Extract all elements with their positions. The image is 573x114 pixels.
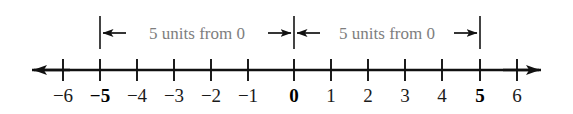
- number-line-graphic: [0, 0, 573, 114]
- tick-label--2: −2: [201, 86, 221, 105]
- tick-label-2: 2: [363, 86, 373, 105]
- tick-label--3: −3: [164, 86, 184, 105]
- tick-label--4: −4: [127, 86, 147, 105]
- left-span-label: 5 units from 0: [149, 25, 245, 42]
- tick-label--1: −1: [238, 86, 258, 105]
- tick-label-1: 1: [326, 86, 336, 105]
- tick-label-3: 3: [400, 86, 410, 105]
- tick-label-6: 6: [512, 86, 522, 105]
- tick-label-4: 4: [437, 86, 447, 105]
- tick-label-5: 5: [475, 86, 485, 105]
- tick-label--6: −6: [53, 86, 73, 105]
- right-span-label: 5 units from 0: [339, 25, 435, 42]
- number-line-figure: 5 units from 0 5 units from 0 −6 −5 −4 −…: [0, 0, 573, 114]
- tick-label--5: −5: [90, 86, 110, 105]
- tick-label-0: 0: [289, 86, 299, 105]
